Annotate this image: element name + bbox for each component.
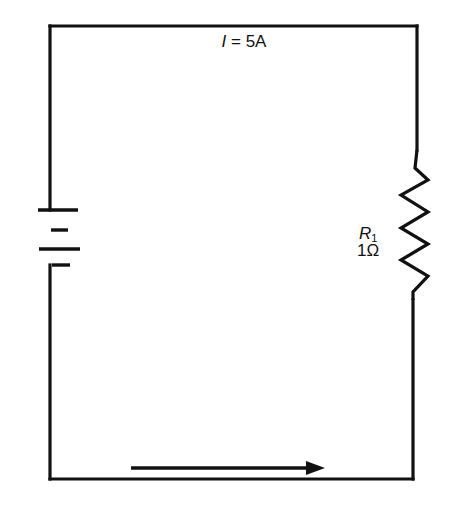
resistor-value-label: 1Ω <box>357 241 379 260</box>
circuit-diagram: I = 5A R1 1Ω <box>0 0 455 506</box>
current-value: 5A <box>246 32 267 51</box>
current-equals: = <box>226 32 245 51</box>
battery-symbol <box>38 210 80 265</box>
arrow-head-icon <box>306 461 325 475</box>
current-direction-arrow <box>131 461 325 475</box>
current-label: I = 5A <box>222 32 268 51</box>
resistor-symbol <box>401 150 428 300</box>
